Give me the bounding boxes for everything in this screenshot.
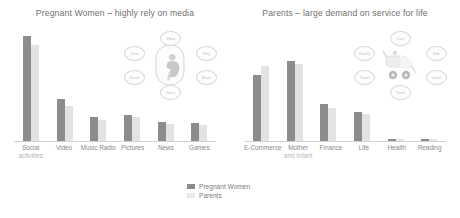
bar-parents <box>65 106 73 141</box>
bar-parents <box>98 120 106 141</box>
x-tick-label: Life <box>347 144 380 160</box>
baby-stroller-icon <box>380 44 420 84</box>
bar-group <box>48 34 82 141</box>
x-tick-label: Video <box>47 144 80 160</box>
x-tick-label: Finance <box>315 144 348 160</box>
legend-label: Parents <box>199 192 222 199</box>
x-tick-label: News <box>149 144 182 160</box>
legend-item-pregnant-women: Pregnant Women <box>187 183 273 190</box>
bar-pregnant-women <box>287 61 295 141</box>
bar-pregnant-women <box>57 99 65 141</box>
x-tick-label: E-Commerce <box>244 144 282 160</box>
x-tick-label: Health <box>380 144 413 160</box>
bar-pregnant-women <box>253 75 261 141</box>
illustration-node: Social <box>124 70 145 85</box>
bar-parents <box>261 66 269 141</box>
bar-pregnant-women <box>23 36 31 141</box>
bar-group <box>14 34 48 141</box>
bar-parents <box>199 125 207 141</box>
bar-pregnant-women <box>354 112 362 141</box>
bar-group <box>244 34 278 141</box>
bar-group <box>278 34 312 141</box>
chart-title-left: Pregnant Women – highly rely on media <box>0 8 230 18</box>
bar-parents <box>328 108 336 141</box>
x-tick-label: Reading <box>413 144 446 160</box>
x-tick-label: Games <box>183 144 216 160</box>
bar-pregnant-women <box>191 123 199 141</box>
x-tick-label: Mother and Infant <box>282 144 315 160</box>
pregnant-woman-icon <box>152 42 188 88</box>
illustration-pregnant-woman: Video Chat Play Social Music News <box>122 28 218 100</box>
illustration-baby-stroller: Care Family Edu Travel Game Food <box>352 28 448 100</box>
legend-swatch-icon <box>187 193 195 198</box>
illustration-node: Chat <box>124 46 145 61</box>
x-tick-label: Music Radio <box>81 144 116 160</box>
illustration-node: Family <box>354 46 375 61</box>
illustration-node: Game <box>426 70 447 85</box>
bar-group <box>81 34 115 141</box>
illustration-node: Travel <box>354 70 375 85</box>
illustration-node: News <box>160 85 181 100</box>
x-tick-label: Pictures <box>116 144 149 160</box>
bar-parents <box>362 114 370 141</box>
illustration-node: Care <box>390 31 411 46</box>
x-axis-line-right <box>244 141 446 142</box>
legend-item-parents: Parents <box>187 192 273 199</box>
illustration-node: Play <box>196 46 217 61</box>
legend-label: Pregnant Women <box>199 183 250 190</box>
legend-swatch-icon <box>187 184 195 189</box>
x-axis-labels-left: Social activities Video Music Radio Pict… <box>14 144 216 160</box>
illustration-node: Music <box>196 70 217 85</box>
bar-parents <box>132 117 140 141</box>
chart-legend: Pregnant Women Parents <box>0 183 460 199</box>
bar-parents <box>166 124 174 141</box>
bar-pregnant-women <box>90 117 98 141</box>
bar-parents <box>295 64 303 141</box>
x-axis-labels-right: E-Commerce Mother and Infant Finance Lif… <box>244 144 446 160</box>
bar-pregnant-women <box>158 122 166 141</box>
x-tick-label: Social activities <box>14 144 47 160</box>
bar-pregnant-women <box>124 115 132 141</box>
illustration-node: Food <box>390 85 411 100</box>
chart-figure: Pregnant Women – highly rely on media <box>0 0 460 218</box>
bar-parents <box>31 45 39 141</box>
x-axis-line-left <box>14 141 216 142</box>
illustration-node: Edu <box>426 46 447 61</box>
bar-pregnant-women <box>320 104 328 141</box>
illustration-node: Video <box>160 31 181 46</box>
bar-group <box>311 34 345 141</box>
chart-title-right: Parents – large demand on service for li… <box>230 8 460 18</box>
